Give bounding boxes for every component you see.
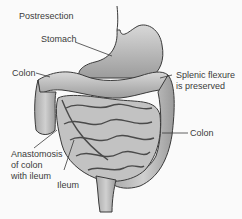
label-anastomosis-2: of colon <box>11 160 43 170</box>
diagram-title: Postresection <box>19 11 74 21</box>
anatomy-illustration <box>0 0 242 219</box>
rectum <box>96 176 116 212</box>
label-ileum: Ileum <box>57 180 79 190</box>
label-anastomosis-3: with ileum <box>11 171 51 181</box>
label-colon-right: Colon <box>190 128 214 138</box>
label-splenic-flexure-1: Splenic flexure <box>176 70 235 80</box>
label-colon-left: Colon <box>12 68 36 78</box>
label-splenic-flexure-2: is preserved <box>176 81 225 91</box>
stomach-shape <box>79 25 163 78</box>
label-stomach: Stomach <box>41 34 77 44</box>
label-anastomosis-1: Anastomosis <box>11 149 63 159</box>
